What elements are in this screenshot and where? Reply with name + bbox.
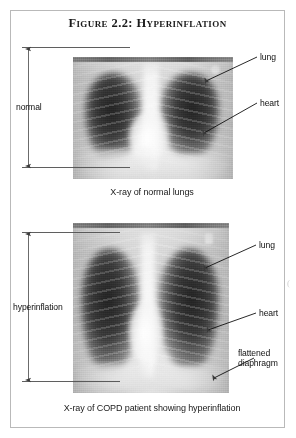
film-grain <box>73 223 229 393</box>
flattened-diaphragm-line-1: flattened <box>238 348 278 358</box>
flattened-diaphragm-line-2: diaphragm <box>238 358 278 368</box>
annotation-label-lung-normal: lung <box>260 52 276 62</box>
caption-copd-hyperinflation: X-ray of COPD patient showing hyperinfla… <box>37 403 267 413</box>
caption-normal-lungs: X-ray of normal lungs <box>57 187 247 197</box>
xray-image-normal-lungs <box>73 57 233 179</box>
xray-image-copd-hyperinflation <box>73 223 229 393</box>
measurement-label-normal: normal <box>16 102 42 112</box>
measurement-label-hyperinflation: hyperinflation <box>13 302 63 312</box>
annotation-label-lung-copd: lung <box>259 240 275 250</box>
annotation-label-flattened-diaphragm: flattened diaphragm <box>238 348 278 368</box>
annotation-label-heart-copd: heart <box>259 308 278 318</box>
figure-title: Figure 2.2: Hyperinflation <box>11 16 284 31</box>
film-grain <box>73 57 233 179</box>
page-edge-artifact: ( <box>287 278 293 300</box>
annotation-label-heart-normal: heart <box>260 98 279 108</box>
